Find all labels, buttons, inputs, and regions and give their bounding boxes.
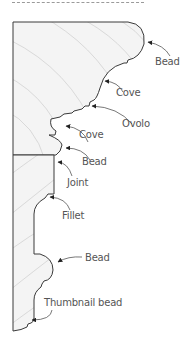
label-thumbnail-bead: Thumbnail bead [44, 297, 122, 308]
arrow-bead-lower [58, 257, 82, 262]
arrow-bead-top [148, 42, 170, 56]
label-bead-middle: Bead [82, 156, 107, 167]
label-fillet: Fillet [62, 210, 84, 221]
label-cove-upper: Cove [116, 87, 140, 98]
label-joint: Joint [67, 177, 88, 188]
molding-profile-diagram [0, 0, 190, 345]
label-ovolo: Ovolo [122, 118, 150, 129]
label-cove-lower: Cove [79, 129, 103, 140]
label-bead-top: Bead [155, 56, 180, 67]
arrow-fillet [50, 197, 70, 210]
arrow-thumbnail-bead [32, 310, 52, 320]
arrow-joint [58, 162, 72, 176]
label-bead-lower: Bead [85, 252, 110, 263]
